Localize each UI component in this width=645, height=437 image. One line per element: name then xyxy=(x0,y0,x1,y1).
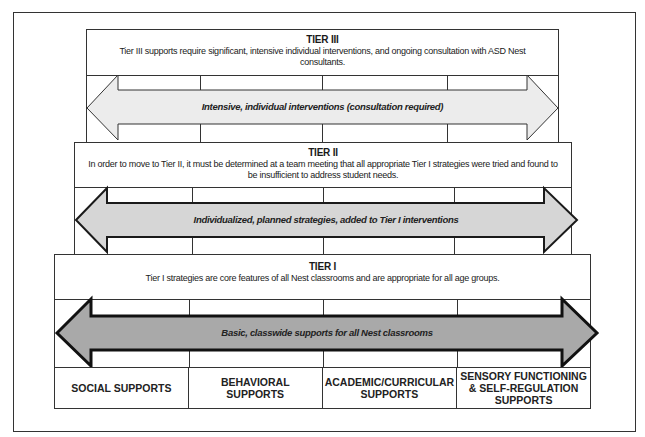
support-categories-row: SOCIAL SUPPORTS BEHAVIORAL SUPPORTS ACAD… xyxy=(54,367,591,409)
category-social-supports: SOCIAL SUPPORTS xyxy=(55,368,188,408)
category-academic-curricular-supports: ACADEMIC/CURRICULAR SUPPORTS xyxy=(322,368,457,408)
category-behavioral-supports: BEHAVIORAL SUPPORTS xyxy=(188,368,322,408)
category-sensory-self-regulation-supports: SENSORY FUNCTIONING & SELF-REGULATION SU… xyxy=(456,368,590,408)
tier-1-arrow-label: Basic, classwide supports for all Nest c… xyxy=(94,327,560,338)
